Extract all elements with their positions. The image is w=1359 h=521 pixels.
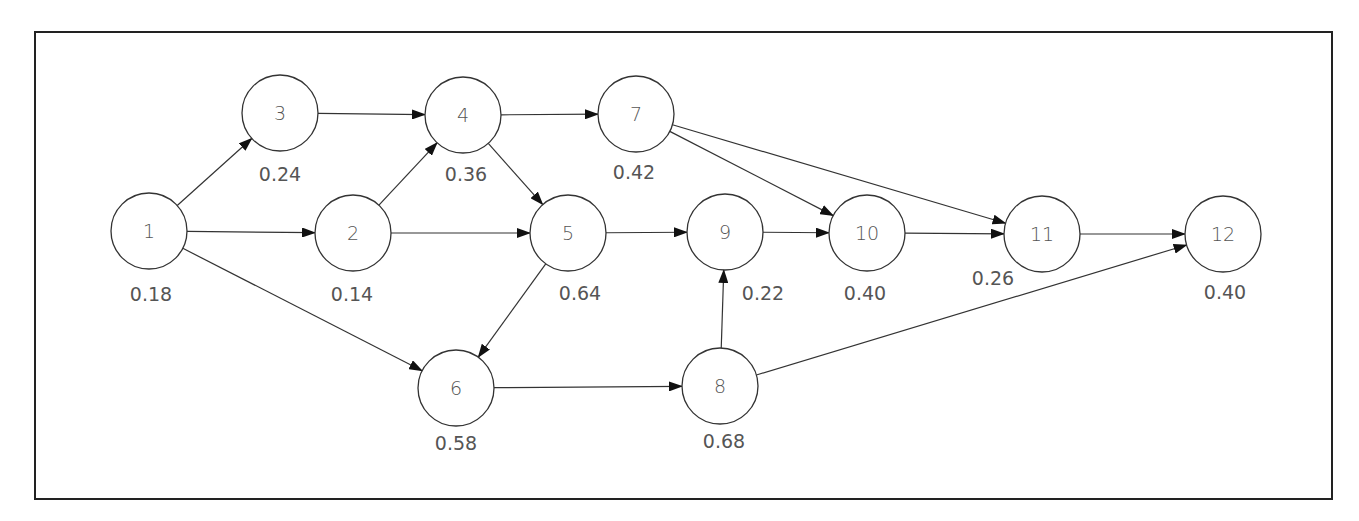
edge-4-to-5 — [488, 143, 542, 204]
edge-3-to-4 — [318, 113, 425, 114]
node-value: 0.42 — [613, 161, 655, 183]
node-10: 100.40 — [829, 195, 905, 304]
node-3: 30.24 — [242, 75, 318, 185]
edge-5-to-9 — [606, 232, 687, 233]
node-value: 0.14 — [331, 283, 373, 305]
node-label: 12 — [1211, 223, 1235, 245]
node-value: 0.40 — [844, 282, 886, 304]
edge-4-to-7 — [501, 114, 598, 115]
node-label: 2 — [347, 222, 359, 244]
node-label: 3 — [274, 102, 286, 124]
node-7: 70.42 — [598, 76, 674, 183]
node-12: 120.40 — [1185, 196, 1261, 303]
node-5: 50.64 — [530, 195, 606, 304]
node-label: 1 — [143, 220, 155, 242]
node-value: 0.26 — [972, 267, 1014, 289]
node-value: 0.64 — [559, 282, 601, 304]
edge-6-to-8 — [494, 386, 682, 387]
node-value: 0.18 — [130, 283, 172, 305]
node-value: 0.68 — [703, 430, 745, 452]
node-value: 0.40 — [1204, 281, 1246, 303]
node-value: 0.36 — [445, 163, 487, 185]
node-label: 7 — [630, 103, 642, 125]
diagram-frame — [35, 32, 1332, 499]
edge-1-to-6 — [183, 248, 422, 370]
node-1: 10.18 — [111, 193, 187, 305]
node-label: 8 — [714, 375, 726, 397]
node-label: 6 — [450, 377, 462, 399]
node-label: 4 — [457, 104, 469, 126]
node-value: 0.24 — [259, 163, 301, 185]
edge-1-to-3 — [177, 138, 252, 205]
nodes-layer: 10.1820.1430.2440.3650.6460.5870.4280.68… — [111, 75, 1261, 454]
node-label: 10 — [855, 222, 879, 244]
node-value: 0.58 — [435, 432, 477, 454]
node-8: 80.68 — [682, 348, 758, 452]
network-diagram: 10.1820.1430.2440.3650.6460.5870.4280.68… — [0, 0, 1359, 521]
edge-8-to-12 — [756, 245, 1186, 375]
edge-7-to-10 — [670, 131, 833, 215]
node-6: 60.58 — [418, 350, 494, 454]
node-label: 11 — [1030, 223, 1054, 245]
node-9: 90.22 — [687, 194, 784, 304]
edge-1-to-2 — [187, 231, 315, 232]
edge-10-to-11 — [905, 233, 1004, 234]
edge-8-to-9 — [721, 270, 724, 348]
node-4: 40.36 — [425, 77, 501, 185]
edge-2-to-4 — [379, 143, 437, 205]
node-label: 9 — [719, 221, 731, 243]
node-11: 110.26 — [972, 196, 1080, 289]
node-label: 5 — [562, 222, 574, 244]
edge-5-to-6 — [478, 264, 545, 357]
node-2: 20.14 — [315, 195, 391, 305]
node-value: 0.22 — [742, 282, 784, 304]
